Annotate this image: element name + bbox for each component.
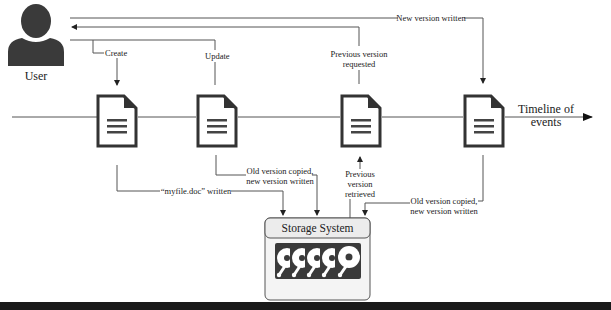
- storage-system: Storage System: [265, 218, 370, 300]
- myfile-written-label: “myfile.doc” written: [161, 186, 232, 196]
- document-icon: [465, 96, 503, 146]
- versioning-diagram: User New version written Previous versio…: [0, 0, 611, 310]
- previous-retrieved-label-line1: Previous: [345, 169, 375, 179]
- timeline-label-line1: Timeline of: [518, 102, 574, 116]
- previous-retrieved-label-line2: version: [347, 179, 373, 189]
- old-copied-connector-2: Old version copied, new version written: [365, 155, 483, 216]
- timeline-label-line2: events: [531, 115, 562, 129]
- user-label: User: [25, 69, 48, 83]
- previous-retrieved-label-line3: retrieved: [345, 189, 376, 199]
- hard-disk-icon: [275, 243, 361, 279]
- old-copied-1-label-line1: Old version copied,: [247, 166, 314, 176]
- old-copied-1-label-line2: new version written: [246, 176, 314, 186]
- update-label: Update: [205, 51, 230, 61]
- previous-requested-label-line1: Previous version: [331, 49, 389, 59]
- storage-title: Storage System: [282, 222, 354, 235]
- bottom-border: [0, 302, 611, 310]
- create-update-connector: Create Update: [70, 40, 230, 85]
- document-icon: [342, 96, 380, 146]
- new-version-written-connector: New version written: [70, 13, 483, 83]
- old-copied-2-label-line1: Old version copied,: [411, 196, 478, 206]
- previous-retrieved-connector: Previous version retrieved: [345, 157, 376, 219]
- new-version-written-label: New version written: [396, 13, 466, 23]
- old-copied-2-label-line2: new version written: [410, 206, 478, 216]
- create-label: Create: [105, 48, 127, 58]
- previous-requested-label-line2: requested: [343, 59, 376, 69]
- user-icon: [8, 4, 64, 66]
- document-icon: [198, 96, 236, 146]
- document-icon: [98, 96, 136, 146]
